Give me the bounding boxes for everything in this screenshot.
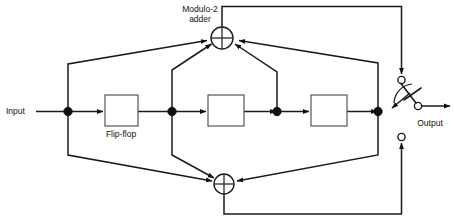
modulo-2-adder-label-line1: Modulo-2 [182,4,218,14]
flip-flop-1-box[interactable] [105,95,138,126]
modulo-2-adder-label-line2: adder [189,14,211,24]
switch-contact-upper-icon[interactable] [398,76,405,83]
feedback-tap0-to-bottom-adder [68,112,212,182]
output-label: Output [417,118,443,128]
return-path-top-adder-to-switch [222,7,402,75]
feedback-tap3-to-top-adder [239,41,378,112]
feedback-tap3-to-bottom-adder [237,112,378,182]
flip-flop-2-box[interactable] [208,95,244,126]
feedback-tap1-to-top-adder [172,44,212,112]
input-label: Input [6,106,26,116]
tap-node-3-dot [374,107,382,115]
tap-node-0-dot [64,107,72,115]
register-boxes [105,95,347,126]
flip-flop-label: Flip-flop [106,129,137,139]
diagram-canvas: Input Output Flip-flop Modulo-2 adder [0,0,454,221]
tap-node-1-dot [168,107,176,115]
modulo-2-adder-bottom[interactable] [214,174,234,194]
output-switch[interactable] [392,76,450,140]
tap-node-2-dot [273,107,281,115]
switch-contact-lower-icon[interactable] [398,133,405,140]
modulo-2-adder-top[interactable] [211,27,233,49]
flip-flop-3-box[interactable] [311,95,347,126]
lfsr-diagram: Input Output Flip-flop Modulo-2 adder [0,0,454,221]
